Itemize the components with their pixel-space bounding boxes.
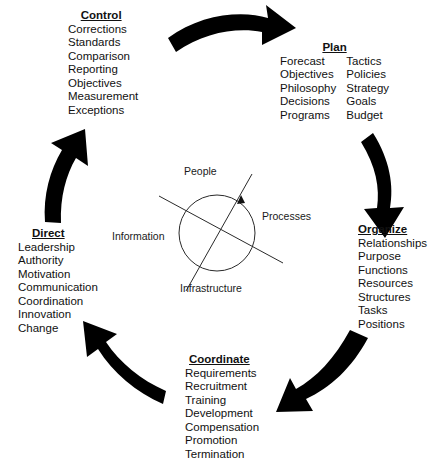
stage-item: Recruitment xyxy=(185,380,259,394)
arrow-direct-to-control xyxy=(45,129,88,223)
stage-plan-items-col2: TacticsPoliciesStrategyGoalsBudget xyxy=(346,55,389,123)
stage-item: Philosophy xyxy=(280,82,336,96)
stage-item: Exceptions xyxy=(68,104,138,118)
stage-item: Compensation xyxy=(185,421,259,435)
stage-item: Motivation xyxy=(18,268,98,282)
stage-item: Tasks xyxy=(358,304,427,318)
stage-organize-title: Organize xyxy=(358,222,427,236)
core-label-processes: Processes xyxy=(262,210,311,222)
stage-item: Reporting xyxy=(68,63,138,77)
stage-item: Standards xyxy=(68,36,138,50)
stage-item: Relationships xyxy=(358,237,427,251)
stage-item: Purpose xyxy=(358,250,427,264)
stage-item: Coordination xyxy=(18,295,98,309)
stage-coordinate-title: Coordinate xyxy=(189,352,259,366)
core-circle xyxy=(179,195,255,271)
core-label-information: Information xyxy=(112,230,165,242)
stage-plan-title: Plan xyxy=(280,40,389,54)
stage-item: Strategy xyxy=(346,82,389,96)
stage-item: Termination xyxy=(185,448,259,462)
diagram-canvas: People Processes Information Infrastruct… xyxy=(0,0,439,473)
stage-coordinate: Coordinate RequirementsRecruitmentTraini… xyxy=(185,352,259,462)
stage-item: Budget xyxy=(346,109,389,123)
stage-control: Control CorrectionsStandardsComparisonRe… xyxy=(68,8,138,118)
stage-item: Training xyxy=(185,394,259,408)
core-axis-arrowhead xyxy=(237,195,245,204)
stage-plan: Plan ForecastObjectivesPhilosophyDecisio… xyxy=(280,40,389,122)
stage-item: Requirements xyxy=(185,367,259,381)
stage-item: Structures xyxy=(358,291,427,305)
stage-direct-title: Direct xyxy=(32,226,98,240)
stage-direct: Direct LeadershipAuthorityMotivationComm… xyxy=(18,226,98,336)
stage-item: Development xyxy=(185,407,259,421)
stage-item: Innovation xyxy=(18,308,98,322)
stage-item: Programs xyxy=(280,109,336,123)
stage-item: Policies xyxy=(346,68,389,82)
stage-control-items: CorrectionsStandardsComparisonReportingO… xyxy=(68,23,138,118)
core-label-people: People xyxy=(184,165,217,177)
stage-plan-items-col1: ForecastObjectivesPhilosophyDecisionsPro… xyxy=(280,55,336,123)
stage-item: Leadership xyxy=(18,241,98,255)
stage-item: Goals xyxy=(346,95,389,109)
stage-item: Objectives xyxy=(280,68,336,82)
stage-coordinate-items: RequirementsRecruitmentTrainingDevelopme… xyxy=(185,367,259,462)
stage-item: Objectives xyxy=(68,77,138,91)
infrastructure-people-axis xyxy=(186,174,252,291)
stage-item: Decisions xyxy=(280,95,336,109)
core-label-infrastructure: Infrastructure xyxy=(180,282,242,294)
stage-plan-items: ForecastObjectivesPhilosophyDecisionsPro… xyxy=(280,55,389,123)
stage-item: Tactics xyxy=(346,55,389,69)
stage-item: Authority xyxy=(18,254,98,268)
stage-control-title: Control xyxy=(64,8,138,22)
stage-item: Forecast xyxy=(280,55,336,69)
stage-item: Corrections xyxy=(68,23,138,37)
stage-item: Promotion xyxy=(185,434,259,448)
stage-item: Comparison xyxy=(68,50,138,64)
stage-item: Resources xyxy=(358,277,427,291)
stage-direct-items: LeadershipAuthorityMotivationCommunicati… xyxy=(18,241,98,336)
stage-item: Positions xyxy=(358,318,427,332)
stage-item: Functions xyxy=(358,264,427,278)
stage-item: Change xyxy=(18,322,98,336)
stage-organize-items: RelationshipsPurposeFunctionsResourcesSt… xyxy=(358,237,427,332)
arrow-organize-to-coordinate xyxy=(276,330,368,412)
core-elements-diagram: People Processes Information Infrastruct… xyxy=(112,160,327,305)
stage-organize: Organize RelationshipsPurposeFunctionsRe… xyxy=(358,222,427,332)
stage-item: Measurement xyxy=(68,90,138,104)
stage-item: Communication xyxy=(18,281,98,295)
arrow-control-to-plan xyxy=(168,5,296,52)
